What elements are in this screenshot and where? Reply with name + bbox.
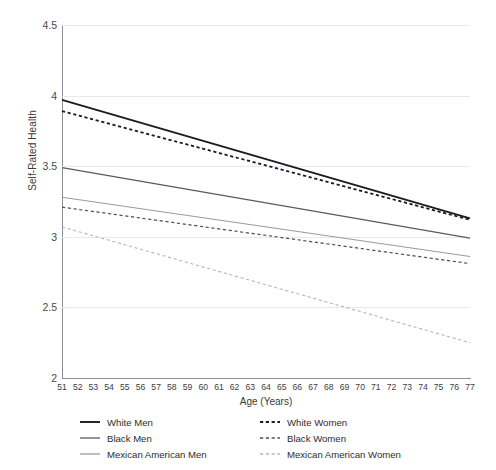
legend-item-label: White Women [287, 417, 347, 428]
x-tick-label: 76 [450, 382, 460, 392]
legend-item-label: Black Men [107, 433, 152, 444]
x-tick-label: 72 [387, 382, 397, 392]
series-line-mexican-american-women [62, 227, 470, 343]
legend-column-left: White MenBlack MenMexican American Men [80, 414, 207, 462]
legend-swatch-icon [260, 433, 280, 443]
legend-swatch-icon [260, 417, 280, 427]
legend-item-label: White Men [107, 417, 153, 428]
x-tick-label: 59 [183, 382, 193, 392]
y-tick-label: 3 [51, 231, 57, 243]
series-line-white-women [62, 111, 470, 220]
x-tick-label: 53 [89, 382, 99, 392]
legend-item[interactable]: Black Women [260, 430, 401, 446]
legend-column-right: White WomenBlack WomenMexican American W… [260, 414, 401, 462]
x-tick-label: 58 [167, 382, 177, 392]
y-axis-title: Self-Rated Health [27, 71, 38, 231]
x-tick-label: 52 [73, 382, 83, 392]
x-tick-label: 63 [246, 382, 256, 392]
series-line-mexican-american-men [62, 197, 470, 256]
series-line-white-men [62, 100, 470, 219]
legend-swatch-icon [80, 417, 100, 427]
x-tick-label: 73 [402, 382, 412, 392]
x-tick-label: 77 [465, 382, 475, 392]
x-tick-label: 60 [198, 382, 208, 392]
legend-item[interactable]: Mexican American Women [260, 446, 401, 462]
series-line-black-women [62, 207, 470, 263]
legend-swatch-icon [80, 449, 100, 459]
x-tick-label: 54 [104, 382, 114, 392]
x-tick-label: 64 [261, 382, 271, 392]
x-tick-label: 62 [230, 382, 240, 392]
legend-item[interactable]: Mexican American Men [80, 446, 207, 462]
legend-item[interactable]: White Women [260, 414, 401, 430]
legend-item[interactable]: Black Men [80, 430, 207, 446]
legend-item-label: Mexican American Men [107, 449, 207, 460]
x-axis-line [62, 378, 471, 379]
series-lines-group [62, 25, 470, 378]
x-tick-label: 65 [277, 382, 287, 392]
x-tick-label: 71 [371, 382, 381, 392]
x-tick-label: 69 [340, 382, 350, 392]
legend-item[interactable]: White Men [80, 414, 207, 430]
chart-figure: Self-Rated Health 22.533.544.5 515253545… [0, 0, 496, 470]
x-tick-label: 56 [136, 382, 146, 392]
series-line-black-men [62, 168, 470, 239]
x-tick-label: 55 [120, 382, 130, 392]
x-tick-label: 70 [355, 382, 365, 392]
x-tick-label: 51 [57, 382, 67, 392]
y-tick-label: 2 [51, 372, 57, 384]
legend-item-label: Mexican American Women [287, 449, 401, 460]
plot-area: 22.533.544.5 515253545556575859606162636… [62, 25, 470, 378]
y-tick-label: 4.5 [42, 19, 57, 31]
y-tick-label: 4 [51, 90, 57, 102]
x-tick-label: 66 [293, 382, 303, 392]
x-tick-label: 68 [324, 382, 334, 392]
legend-item-label: Black Women [287, 433, 346, 444]
x-tick-label: 61 [214, 382, 224, 392]
legend-swatch-icon [260, 449, 280, 459]
x-axis-title: Age (Years) [62, 396, 470, 407]
legend-swatch-icon [80, 433, 100, 443]
x-tick-label: 67 [308, 382, 318, 392]
y-tick-label: 3.5 [42, 160, 57, 172]
x-tick-label: 57 [151, 382, 161, 392]
x-tick-label: 74 [418, 382, 428, 392]
x-tick-label: 75 [434, 382, 444, 392]
chart-legend: White MenBlack MenMexican American Men W… [62, 414, 462, 462]
y-tick-label: 2.5 [42, 301, 57, 313]
